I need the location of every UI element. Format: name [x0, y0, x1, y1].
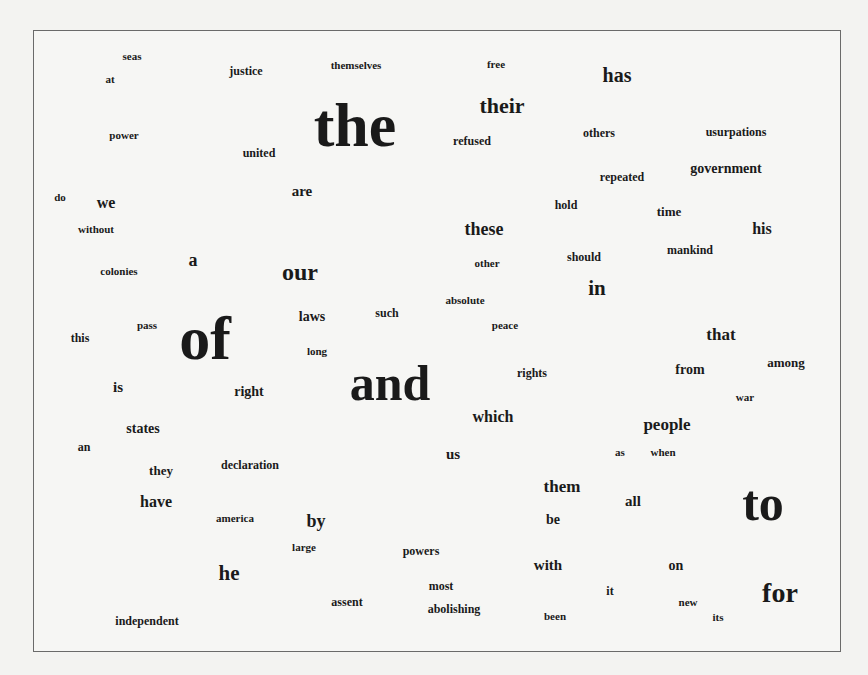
cloud-word-hold: hold [555, 199, 578, 211]
cloud-word-and: and [350, 358, 431, 408]
cloud-word-declaration: declaration [221, 459, 279, 471]
cloud-word-are: are [292, 184, 313, 199]
cloud-word-on: on [669, 559, 684, 573]
cloud-word-as: as [615, 447, 625, 458]
cloud-word-states: states [126, 422, 159, 436]
cloud-word-have: have [140, 494, 172, 510]
cloud-word-this: this [71, 332, 90, 344]
cloud-word-seas: seas [123, 51, 142, 62]
cloud-word-by: by [306, 512, 325, 530]
cloud-word-at: at [105, 74, 114, 85]
cloud-word-a: a [189, 251, 198, 269]
cloud-word-he: he [219, 563, 240, 584]
cloud-word-others: others [583, 127, 615, 139]
cloud-word-war: war [736, 392, 754, 403]
cloud-word-with: with [534, 558, 562, 573]
cloud-word-of: of [179, 307, 231, 369]
cloud-word-us: us [446, 447, 460, 462]
cloud-word-when: when [650, 447, 675, 458]
cloud-word-america: america [216, 513, 254, 524]
cloud-word-from: from [675, 363, 704, 377]
cloud-word-powers: powers [403, 545, 440, 557]
cloud-word-be: be [546, 513, 560, 527]
cloud-word-other: other [474, 258, 499, 269]
cloud-word-them: them [544, 478, 581, 495]
cloud-word-our: our [282, 260, 318, 284]
cloud-word-his: his [752, 221, 772, 237]
cloud-word-justice: justice [229, 65, 262, 77]
cloud-word-rights: rights [517, 367, 547, 379]
cloud-word-abolishing: abolishing [428, 603, 481, 615]
cloud-word-assent: assent [331, 596, 362, 608]
cloud-word-power: power [109, 130, 138, 141]
cloud-word-government: government [690, 162, 762, 176]
cloud-word-these: these [465, 220, 504, 238]
cloud-word-its: its [713, 612, 724, 623]
cloud-word-absolute: absolute [445, 295, 484, 306]
cloud-word-new: new [679, 597, 698, 608]
cloud-word-united: united [243, 147, 276, 159]
cloud-word-most: most [429, 580, 454, 592]
cloud-word-peace: peace [492, 320, 518, 331]
cloud-word-without: without [78, 224, 114, 235]
cloud-word-has: has [603, 65, 632, 85]
cloud-word-right: right [234, 385, 264, 399]
cloud-word-mankind: mankind [667, 244, 713, 256]
cloud-word-the: the [314, 94, 397, 156]
cloud-word-repeated: repeated [600, 171, 644, 183]
cloud-word-large: large [292, 542, 316, 553]
cloud-word-people: people [643, 416, 690, 433]
cloud-word-all: all [625, 494, 641, 509]
cloud-word-time: time [657, 205, 682, 218]
cloud-word-to: to [742, 478, 784, 528]
cloud-word-is: is [113, 380, 123, 395]
cloud-word-free: free [487, 59, 505, 70]
cloud-word-themselves: themselves [331, 60, 382, 71]
cloud-word-they: they [149, 464, 173, 477]
cloud-word-among: among [767, 356, 805, 369]
cloud-word-an: an [78, 441, 91, 453]
cloud-word-do: do [54, 192, 66, 203]
cloud-word-we: we [97, 195, 116, 211]
cloud-word-usurpations: usurpations [706, 126, 767, 138]
cloud-word-refused: refused [453, 135, 491, 147]
cloud-word-long: long [307, 346, 327, 357]
cloud-word-in: in [588, 278, 606, 299]
cloud-word-laws: laws [299, 310, 325, 324]
cloud-word-colonies: colonies [100, 266, 137, 277]
cloud-word-for: for [762, 579, 798, 607]
cloud-word-it: it [606, 585, 613, 597]
cloud-word-should: should [567, 251, 601, 263]
cloud-word-such: such [375, 307, 398, 319]
cloud-word-that: that [706, 326, 735, 343]
cloud-word-pass: pass [137, 320, 157, 331]
cloud-word-their: their [479, 95, 524, 117]
cloud-word-been: been [544, 611, 566, 622]
cloud-word-which: which [473, 409, 514, 425]
cloud-word-independent: independent [115, 615, 178, 627]
